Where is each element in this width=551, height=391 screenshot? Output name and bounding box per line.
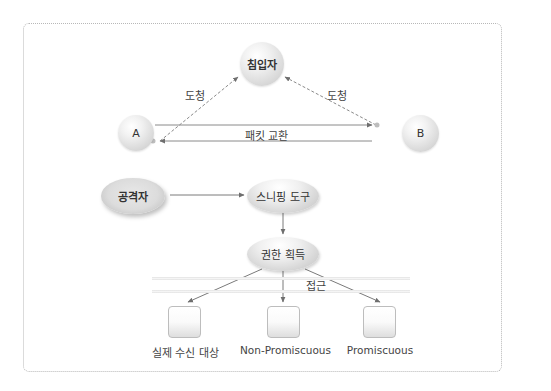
target-box-non-promiscuous <box>267 306 300 338</box>
host-b-node: B <box>402 115 439 152</box>
host-a-label: A <box>132 127 140 140</box>
sniffing-tool-label: 스니핑 도구 <box>256 188 310 204</box>
packet-exchange-label: 패킷 교환 <box>245 127 289 143</box>
privilege-gain-label: 권한 획득 <box>261 246 305 262</box>
access-band-bottom <box>152 290 410 293</box>
privilege-gain-node: 권한 획득 <box>247 237 319 271</box>
tap-point-b <box>375 123 380 128</box>
intruder-node: 침입자 <box>240 42 284 86</box>
target-box-actual-recipient <box>168 306 201 338</box>
intruder-label: 침입자 <box>247 56 277 72</box>
eavesdrop-label-left: 도청 <box>185 87 205 103</box>
host-b-label: B <box>417 127 425 140</box>
target-label-promiscuous: Promiscuous <box>345 344 415 356</box>
target-label-non-promiscuous: Non-Promiscuous <box>240 344 328 356</box>
attacker-label: 공격자 <box>118 188 148 204</box>
target-label-actual-recipient: 실제 수신 대상 <box>152 344 218 360</box>
access-band-top <box>152 277 410 280</box>
privilege-to-target-1-arrow <box>188 269 262 302</box>
access-label: 접근 <box>306 277 326 293</box>
attacker-node: 공격자 <box>101 178 165 214</box>
target-box-promiscuous <box>363 306 396 338</box>
host-a-node: A <box>118 115 154 151</box>
sniffing-tool-node: 스니핑 도구 <box>247 179 319 213</box>
eavesdrop-label-right: 도청 <box>327 87 347 103</box>
